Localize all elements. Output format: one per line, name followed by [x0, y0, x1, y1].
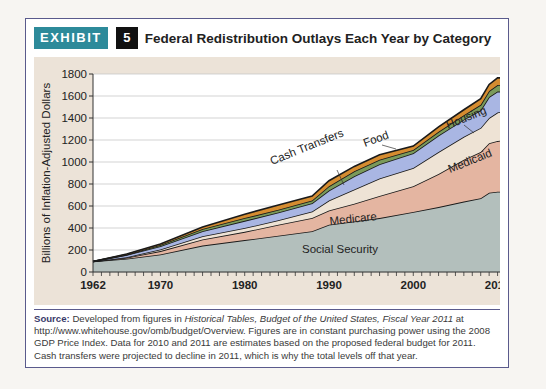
source-label: Source:: [34, 313, 70, 324]
x-tick-label: 1962: [80, 279, 106, 291]
chart-title: Federal Redistribution Outlays Each Year…: [145, 31, 491, 46]
y-tick-label: 600: [68, 200, 87, 212]
y-tick-label: 1800: [61, 68, 87, 80]
exhibit-number: 5: [116, 27, 138, 49]
y-axis-label: Billions of Inflation-Adjusted Dollars: [40, 83, 52, 264]
y-tick-label: 0: [81, 266, 87, 278]
x-tick-label: 1970: [148, 279, 174, 291]
source-note: Source: Developed from figures in Histor…: [34, 313, 500, 362]
chart-panel: 0200400600800100012001400160018001962197…: [34, 57, 500, 305]
y-tick-label: 1000: [61, 156, 87, 168]
source-text-1: Developed from figures in: [70, 313, 185, 324]
divider: [34, 309, 500, 310]
y-tick-label: 1400: [61, 112, 87, 124]
exhibit-frame: EXHIBIT 5 Federal Redistribution Outlays…: [25, 18, 509, 368]
x-tick-label: 2010: [485, 279, 500, 291]
exhibit-header: EXHIBIT 5 Federal Redistribution Outlays…: [34, 27, 491, 49]
y-tick-label: 200: [68, 244, 87, 256]
y-tick-label: 400: [68, 222, 87, 234]
x-tick-label: 1990: [316, 279, 342, 291]
stacked-area-chart: 0200400600800100012001400160018001962197…: [34, 57, 500, 305]
y-tick-label: 1600: [61, 90, 87, 102]
source-title: Historical Tables, Budget of the United …: [184, 313, 453, 324]
y-tick-label: 1200: [61, 134, 87, 146]
x-tick-label: 2000: [400, 279, 426, 291]
label-social-security: Social Security: [302, 243, 378, 255]
y-tick-label: 800: [68, 178, 87, 190]
exhibit-label: EXHIBIT: [34, 27, 108, 49]
x-tick-label: 1980: [232, 279, 258, 291]
